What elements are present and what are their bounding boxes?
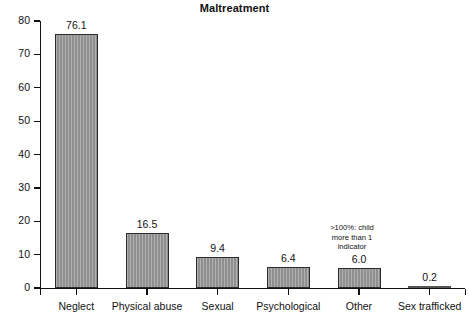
over-100-note-annotation: >100%: childmore than 1indicator — [303, 223, 401, 252]
bar-value-label: 16.5 — [117, 218, 177, 230]
bar — [408, 286, 451, 288]
annotation-line: more than 1 — [303, 233, 401, 243]
y-axis-tick-label: 0 — [0, 281, 30, 293]
x-axis-tick — [465, 289, 466, 295]
y-axis-tick-label: 30 — [0, 181, 30, 193]
bar — [126, 233, 169, 288]
y-axis-tick — [34, 254, 40, 255]
x-axis-tick — [288, 289, 289, 295]
bar-value-label: 9.4 — [188, 242, 248, 254]
x-axis-tick — [146, 289, 147, 295]
bar-chart: Maltreatment 80706050403020100 NeglectPh… — [0, 0, 469, 324]
x-axis-tick — [429, 289, 430, 295]
bar — [267, 267, 310, 288]
x-axis-tick — [358, 289, 359, 295]
bar — [338, 268, 381, 288]
y-axis-tick-label: 40 — [0, 148, 30, 160]
bar-value-label: 76.1 — [46, 19, 106, 31]
bar-value-label: 0.2 — [400, 271, 460, 283]
y-axis-tick — [34, 54, 40, 55]
bar — [55, 34, 98, 288]
bar-value-label: 6.0 — [329, 253, 389, 265]
y-axis-tick-label: 70 — [0, 47, 30, 59]
bar-value-label: 6.4 — [258, 252, 318, 264]
y-axis-tick-label: 60 — [0, 81, 30, 93]
plot-area — [41, 21, 465, 288]
x-axis-line — [40, 288, 465, 289]
y-axis-tick-label: 20 — [0, 214, 30, 226]
y-axis-tick — [34, 121, 40, 122]
y-axis-tick-label: 50 — [0, 114, 30, 126]
y-axis-tick — [34, 154, 40, 155]
annotation-line: >100%: child — [303, 223, 401, 233]
x-axis-tick — [40, 289, 41, 295]
chart-title: Maltreatment — [0, 2, 469, 14]
y-axis-tick-label: 80 — [0, 14, 30, 26]
y-axis-tick — [34, 187, 40, 188]
y-axis-tick — [34, 87, 40, 88]
x-axis-category-label: Sex trafficked — [370, 300, 469, 312]
bar — [196, 257, 239, 288]
x-axis-tick — [76, 289, 77, 295]
annotation-line: indicator — [303, 242, 401, 252]
y-axis-tick — [34, 20, 40, 21]
x-axis-tick — [217, 289, 218, 295]
y-axis-tick — [34, 221, 40, 222]
y-axis-tick-label: 10 — [0, 248, 30, 260]
